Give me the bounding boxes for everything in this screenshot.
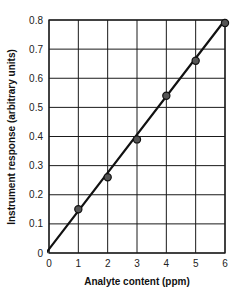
y-tick-label: 0 xyxy=(37,248,43,259)
data-point-marker xyxy=(163,92,170,99)
y-tick-label: 0.4 xyxy=(29,131,43,142)
x-tick-label: 5 xyxy=(193,258,199,269)
x-tick-label: 0 xyxy=(46,258,52,269)
x-tick-label: 6 xyxy=(222,258,228,269)
x-tick-label: 4 xyxy=(164,258,170,269)
x-tick-label: 1 xyxy=(76,258,82,269)
data-point-marker xyxy=(104,174,111,181)
data-point-marker xyxy=(221,19,228,26)
x-tick-label: 2 xyxy=(105,258,111,269)
y-tick-label: 0.5 xyxy=(29,102,43,113)
x-tick-label: 3 xyxy=(134,258,140,269)
y-tick-label: 0.7 xyxy=(29,44,43,55)
y-tick-label: 0.2 xyxy=(29,189,43,200)
x-axis-title: Analyte content (ppm) xyxy=(84,276,190,287)
data-point-marker xyxy=(75,206,82,213)
y-tick-label: 0.1 xyxy=(29,218,43,229)
y-axis-title: Instrument response (arbitrary units) xyxy=(6,49,17,225)
y-tick-label: 0.8 xyxy=(29,15,43,26)
data-point-marker xyxy=(133,136,140,143)
y-tick-label: 0.3 xyxy=(29,160,43,171)
x-axis-tick-labels: 0123456 xyxy=(46,258,228,269)
y-axis-tick-labels: 00.10.20.30.40.50.60.70.8 xyxy=(29,15,43,259)
calibration-chart: 0123456 00.10.20.30.40.50.60.70.8 Analyt… xyxy=(0,0,238,300)
data-point-marker xyxy=(192,57,199,64)
y-tick-label: 0.6 xyxy=(29,73,43,84)
